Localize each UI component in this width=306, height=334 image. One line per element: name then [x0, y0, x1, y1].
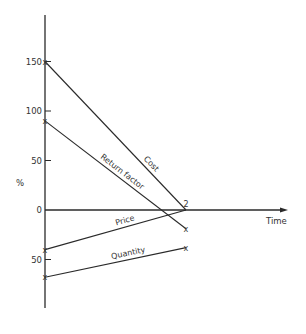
- x-marker-icon: x: [43, 117, 48, 126]
- y-ticks: 15010050050: [26, 57, 51, 265]
- series-return-factor-label: Return factor: [99, 152, 147, 192]
- x-axis-arrow-icon: [280, 208, 288, 213]
- x-marker-icon: x: [184, 225, 189, 234]
- axes: [45, 15, 288, 308]
- x-marker-icon: x: [184, 244, 189, 253]
- x-marker-icon: x: [43, 273, 48, 282]
- intersection-count-annotation: 2: [184, 200, 189, 209]
- series-cost-line: [45, 62, 186, 211]
- y-tick-label: 50: [31, 156, 42, 166]
- y-axis-label: %: [16, 178, 24, 188]
- series-quantity-label: Quantity: [110, 245, 146, 261]
- series-lines: xCostxReturn factorxPricexQuantity: [43, 58, 187, 283]
- y-tick-label: 50: [31, 255, 42, 265]
- y-tick-label: 0: [37, 205, 42, 215]
- series-return-factor-line: [45, 121, 186, 229]
- y-tick-label: 100: [26, 106, 42, 116]
- x-marker-icon: x: [43, 58, 48, 67]
- annotations: 2xx: [184, 200, 189, 253]
- line-chart: 15010050050 % Time xCostxReturn factorxP…: [0, 0, 306, 334]
- series-price-line: [45, 210, 186, 250]
- x-marker-icon: x: [43, 246, 48, 255]
- y-tick-label: 150: [26, 57, 42, 67]
- x-axis-label: Time: [265, 216, 287, 226]
- series-cost-label: Cost: [142, 154, 161, 173]
